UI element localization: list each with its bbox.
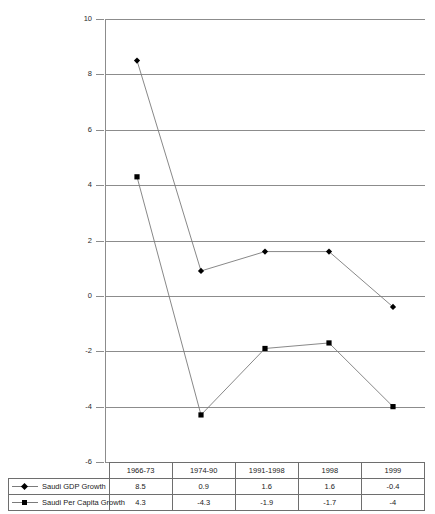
gridline: [105, 407, 425, 408]
column-header: 1991-1998: [235, 463, 298, 479]
gridline: [105, 241, 425, 242]
y-axis-tick-label: 6: [62, 126, 92, 134]
y-axis-tick-label: 4: [62, 181, 92, 189]
gridline: [105, 19, 425, 20]
column-header: 1999: [361, 463, 424, 479]
diamond-marker-icon: [12, 482, 38, 491]
y-axis-tick-label: -2: [62, 347, 92, 355]
y-axis-tick: [96, 241, 104, 242]
y-axis-tick: [96, 74, 104, 75]
table-body: Saudi GDP Growth8.50.91.61.6-0.4Saudi Pe…: [9, 479, 425, 511]
table-cell: 1.6: [235, 479, 298, 495]
y-axis-tick-label: 10: [62, 15, 92, 23]
y-axis-tick-label: 8: [62, 70, 92, 78]
legend-entry: Saudi GDP Growth: [9, 479, 110, 495]
table-corner-cell: [9, 463, 110, 479]
y-axis-tick-label: 0: [62, 292, 92, 300]
column-header: 1974-90: [172, 463, 235, 479]
gridline: [105, 185, 425, 186]
table-row: Saudi GDP Growth8.50.91.61.6-0.4: [9, 479, 425, 495]
table-row: Saudi Per Capita Growth4.3-4.3-1.9-1.7-4: [9, 495, 425, 511]
y-axis-tick: [96, 296, 104, 297]
gridline: [105, 351, 425, 352]
table-header-row: 1966-73 1974-90 1991-1998 1998 1999: [9, 463, 425, 479]
legend-entry: Saudi Per Capita Growth: [9, 495, 110, 511]
table-cell: 8.5: [109, 479, 172, 495]
table-cell: -1.7: [298, 495, 361, 511]
square-marker-icon: [12, 498, 38, 507]
y-axis-tick-label: -4: [62, 403, 92, 411]
y-axis-tick-label: 2: [62, 237, 92, 245]
table-cell: -0.4: [361, 479, 424, 495]
y-axis-tick: [96, 19, 104, 20]
legend-label: Saudi Per Capita Growth: [42, 498, 125, 507]
column-header: 1998: [298, 463, 361, 479]
table-cell: -1.9: [235, 495, 298, 511]
table-cell: -4: [361, 495, 424, 511]
chart-figure: 1086420-2-4-6 1966-73 1974-90 1991-1998 …: [0, 0, 435, 514]
legend-label: Saudi GDP Growth: [42, 482, 106, 491]
y-axis-tick: [96, 185, 104, 186]
y-axis-tick: [96, 407, 104, 408]
gridline: [105, 74, 425, 75]
column-header: 1966-73: [109, 463, 172, 479]
gridline: [105, 130, 425, 131]
gridline: [105, 296, 425, 297]
data-table: 1966-73 1974-90 1991-1998 1998 1999 Saud…: [8, 462, 425, 511]
table-cell: 0.9: [172, 479, 235, 495]
y-axis-tick: [96, 351, 104, 352]
y-axis-tick: [96, 130, 104, 131]
table-cell: -4.3: [172, 495, 235, 511]
table-cell: 1.6: [298, 479, 361, 495]
